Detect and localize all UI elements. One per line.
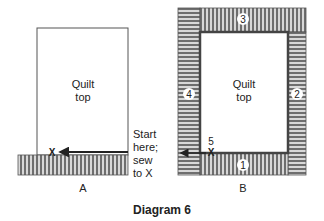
panel-a-label: A xyxy=(79,182,87,194)
x-marker-b: X xyxy=(208,147,215,158)
badge-2: 2 xyxy=(291,88,303,100)
instruction-line-4: to X xyxy=(133,167,153,179)
badge-3: 3 xyxy=(237,13,249,25)
panel-b-label: B xyxy=(239,182,246,194)
quilt-top-b-label-line1: Quilt xyxy=(233,78,256,90)
panel-a: Quilt top X Start here; sew to X A xyxy=(18,28,158,194)
instruction-line-1: Start xyxy=(133,128,156,140)
svg-text:2: 2 xyxy=(294,89,300,100)
instruction-line-2: here; xyxy=(133,141,158,153)
badge-4: 4 xyxy=(183,88,195,100)
quilt-top-a-label-line2: top xyxy=(75,91,90,103)
border-strip-a xyxy=(18,155,128,175)
border-2-right xyxy=(288,32,306,175)
marker-number-5: 5 xyxy=(208,136,214,147)
svg-text:3: 3 xyxy=(240,14,246,25)
instruction-line-3: sew xyxy=(133,154,153,166)
svg-text:1: 1 xyxy=(240,160,246,171)
svg-text:4: 4 xyxy=(186,89,192,100)
panel-b: Quilt top 3 4 2 1 5 X B xyxy=(178,8,306,194)
quilt-top-a-label-line1: Quilt xyxy=(72,78,95,90)
diagram-title: Diagram 6 xyxy=(133,203,191,217)
x-marker-a: X xyxy=(49,147,56,158)
quilt-top-b-label-line2: top xyxy=(236,91,251,103)
badge-1: 1 xyxy=(237,159,249,171)
diagram-canvas: Quilt top X Start here; sew to X A Quilt… xyxy=(0,0,324,221)
border-3-top xyxy=(200,8,306,32)
